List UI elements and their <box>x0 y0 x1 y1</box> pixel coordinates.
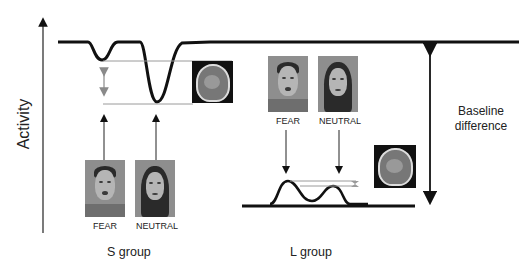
s-fear-face-image <box>85 160 125 217</box>
baseline-difference-label: Baseline difference <box>446 104 516 134</box>
l-brain-mri-image <box>374 145 416 188</box>
s-fear-label: FEAR <box>93 221 117 231</box>
diagram-canvas <box>0 0 519 265</box>
l-group-curve <box>270 181 368 204</box>
l-difference-marker <box>351 181 359 187</box>
s-neutral-label: NEUTRAL <box>136 221 178 231</box>
l-fear-face-image <box>268 56 308 112</box>
l-fear-label: FEAR <box>276 116 300 126</box>
s-group-label: S group <box>107 245 151 259</box>
y-axis-label: Activity <box>15 94 33 154</box>
s-neutral-face-image <box>135 160 175 217</box>
baseline-difference-line2: difference <box>446 119 516 134</box>
l-neutral-face-image <box>318 56 358 112</box>
baseline-difference-line1: Baseline <box>446 104 516 119</box>
l-neutral-label: NEUTRAL <box>319 116 361 126</box>
l-group-label: L group <box>290 245 332 259</box>
s-brain-mri-image <box>192 61 233 103</box>
